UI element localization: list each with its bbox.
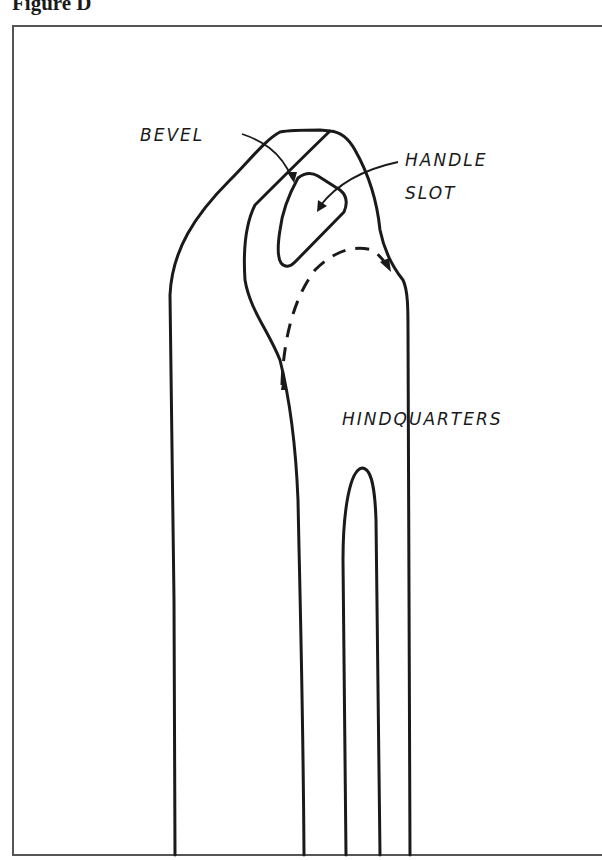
hindquarters-label: HINDQUARTERS <box>342 409 503 429</box>
handle-slot-label-line1: HANDLE <box>405 150 487 170</box>
leg-gap-line <box>343 468 380 855</box>
handle-slot-outline <box>278 173 346 266</box>
hidden-contour-dashed <box>282 248 388 385</box>
handle-slot-label-line2: SLOT <box>405 183 457 203</box>
bevel-label: BEVEL <box>140 125 204 145</box>
handle-slot-arrowhead-icon <box>317 200 327 212</box>
